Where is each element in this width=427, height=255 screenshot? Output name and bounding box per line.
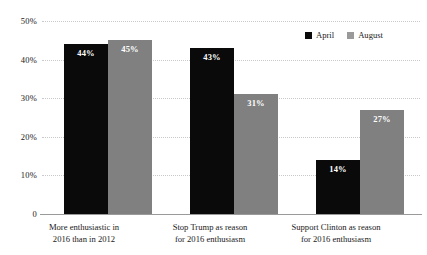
bar-value-label: 43%: [190, 53, 234, 62]
bar-value-label: 27%: [360, 115, 404, 124]
gridline-50: [42, 21, 420, 22]
bar-august-1: 31%: [234, 94, 278, 214]
legend-item-august: August: [347, 31, 383, 40]
legend-item-april: April: [305, 31, 334, 40]
category-label-line: 2016 than in 2012: [24, 234, 144, 246]
x-axis-line: [40, 214, 422, 215]
legend-swatch-icon: [347, 32, 354, 39]
bar-value-label: 31%: [234, 99, 278, 108]
legend-label: April: [316, 31, 334, 40]
bar-april-0: 44%: [64, 44, 108, 214]
y-tick-label: 0: [33, 210, 37, 219]
y-tick-label: 10%: [21, 171, 37, 180]
y-tick-label: 50%: [21, 17, 37, 26]
category-label-line: for 2016 enthusiasm: [150, 234, 270, 246]
bar-value-label: 44%: [64, 49, 108, 58]
bar-april-1: 43%: [190, 48, 234, 214]
legend-swatch-icon: [305, 32, 312, 39]
category-label-line: Support Clinton as reason: [270, 222, 402, 234]
y-tick-label: 30%: [21, 94, 37, 103]
category-label-1: Stop Trump as reason for 2016 enthusiasm: [150, 222, 270, 246]
legend-label: August: [358, 31, 383, 40]
category-label-line: for 2016 enthusiasm: [270, 234, 402, 246]
bar-value-label: 45%: [108, 45, 152, 54]
category-label-line: More enthusiastic in: [24, 222, 144, 234]
bar-april-2: 14%: [316, 160, 360, 214]
plot-area: 44% 45% 43% 31% 14% 27%: [42, 21, 420, 214]
bar-chart: 50% 40% 30% 20% 10% 0 44% 45% 43% 31% 14…: [0, 0, 427, 255]
category-label-line: Stop Trump as reason: [150, 222, 270, 234]
bar-august-2: 27%: [360, 110, 404, 214]
bar-august-0: 45%: [108, 40, 152, 214]
y-tick-label: 40%: [21, 56, 37, 65]
legend: April August: [305, 31, 383, 40]
y-tick-label: 20%: [21, 133, 37, 142]
y-axis: 50% 40% 30% 20% 10% 0: [0, 0, 37, 255]
category-label-0: More enthusiastic in 2016 than in 2012: [24, 222, 144, 246]
bar-value-label: 14%: [316, 165, 360, 174]
category-label-2: Support Clinton as reason for 2016 enthu…: [270, 222, 402, 246]
